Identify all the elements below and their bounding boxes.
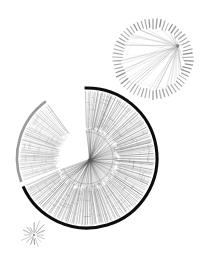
- figure-canvas: [0, 0, 209, 267]
- radial-tree-plot: [0, 0, 209, 267]
